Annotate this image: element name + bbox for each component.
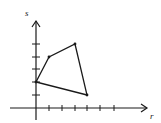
vertex-point: [86, 94, 89, 97]
x-axis-label: r: [150, 111, 154, 121]
vertex-point: [48, 56, 51, 59]
coordinate-diagram: s r: [0, 0, 161, 123]
vertex-point: [74, 43, 77, 46]
vertex-point: [35, 81, 38, 84]
y-axis-label: s: [25, 8, 29, 18]
quadrilateral-shape: [36, 44, 87, 95]
